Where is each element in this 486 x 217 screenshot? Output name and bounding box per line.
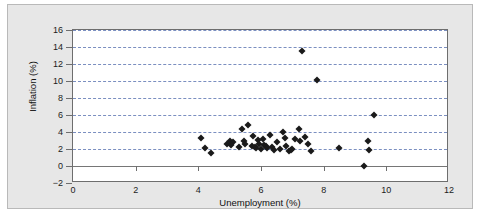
data-point — [298, 48, 305, 55]
x-axis-tick — [261, 166, 262, 171]
data-point — [242, 140, 249, 147]
gridline-y — [73, 64, 447, 65]
data-point — [366, 146, 373, 153]
y-axis-tick — [66, 149, 72, 150]
gridline-y — [73, 115, 447, 116]
gridline-y — [73, 47, 447, 48]
y-axis-tick — [66, 115, 72, 116]
x-axis-tick-label: 6 — [258, 185, 263, 195]
data-point — [281, 134, 288, 141]
x-axis-tick — [136, 166, 137, 171]
x-axis-tick — [324, 166, 325, 171]
y-axis-tick-label: 16 — [53, 25, 63, 35]
y-axis-title: Inflation (%) — [27, 32, 38, 142]
y-axis-tick — [66, 166, 72, 167]
y-axis-tick — [66, 183, 72, 184]
x-axis-tick-label: 2 — [133, 185, 138, 195]
x-axis-title: Unemployment (%) — [72, 197, 448, 208]
y-axis-tick-label: 14 — [53, 42, 63, 52]
y-axis-tick — [66, 64, 72, 65]
y-axis-tick-label: 0 — [58, 161, 63, 171]
chart-figure: −20246810121416024681012 Unemployment (%… — [7, 4, 473, 209]
data-point — [314, 77, 321, 84]
data-point — [245, 122, 252, 129]
x-axis-tick-label: 0 — [70, 185, 75, 195]
y-axis-tick-label: 8 — [58, 93, 63, 103]
zero-line — [73, 166, 447, 167]
data-point — [336, 145, 343, 152]
data-point — [198, 134, 205, 141]
data-point — [370, 111, 377, 118]
x-axis-tick-label: 10 — [381, 185, 391, 195]
y-axis-tick — [66, 81, 72, 82]
gridline-y — [73, 81, 447, 82]
y-axis-tick-label: 6 — [58, 110, 63, 120]
y-axis-tick — [66, 98, 72, 99]
y-axis-tick-label: 10 — [53, 76, 63, 86]
y-axis-tick-label: 2 — [58, 144, 63, 154]
plot-area: −20246810121416024681012 — [72, 29, 448, 182]
x-axis-tick — [386, 166, 387, 171]
y-axis-tick — [66, 30, 72, 31]
data-point — [207, 150, 214, 157]
x-axis-tick-label: 4 — [196, 185, 201, 195]
y-axis-tick — [66, 47, 72, 48]
x-axis-tick — [198, 166, 199, 171]
data-point — [201, 145, 208, 152]
x-axis-tick-label: 8 — [321, 185, 326, 195]
data-point — [361, 162, 368, 169]
gridline-y — [73, 98, 447, 99]
y-axis-tick-label: 4 — [58, 127, 63, 137]
x-axis-tick-label: 12 — [444, 185, 454, 195]
y-axis-tick-label: −2 — [53, 178, 63, 188]
gridline-y — [73, 132, 447, 133]
y-axis-tick-label: 12 — [53, 59, 63, 69]
data-point — [364, 137, 371, 144]
y-axis-tick — [66, 132, 72, 133]
gridline-y — [73, 30, 447, 31]
